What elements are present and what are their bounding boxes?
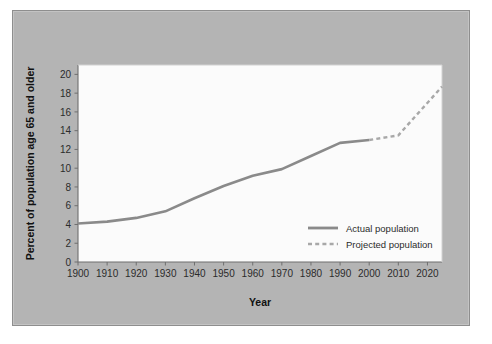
x-axis-tick-label: 1980 bbox=[300, 268, 323, 279]
x-axis-tick-label: 1910 bbox=[96, 268, 119, 279]
y-axis-tick-label: 4 bbox=[65, 219, 71, 230]
x-axis-tick-label: 1900 bbox=[67, 268, 90, 279]
figure-root: 1900191019201930194019501960197019801990… bbox=[0, 0, 492, 344]
legend-label: Projected population bbox=[346, 239, 433, 250]
y-axis-tick-label: 12 bbox=[60, 144, 72, 155]
x-axis-tick-label: 2020 bbox=[416, 268, 439, 279]
x-axis-tick-label: 1950 bbox=[212, 268, 235, 279]
x-axis-title: Year bbox=[249, 296, 271, 308]
y-axis-tick-label: 2 bbox=[65, 238, 71, 249]
x-axis-tick-label: 1930 bbox=[154, 268, 177, 279]
x-axis-tick-label: 1960 bbox=[242, 268, 265, 279]
y-axis-tick-label: 20 bbox=[60, 69, 72, 80]
y-axis-tick-label: 8 bbox=[65, 182, 71, 193]
y-axis-tick-label: 6 bbox=[65, 200, 71, 211]
x-axis-tick-label: 1990 bbox=[329, 268, 352, 279]
y-axis-tick-label: 18 bbox=[60, 88, 72, 99]
y-axis-tick-label: 0 bbox=[65, 257, 71, 268]
y-axis-tick-label: 14 bbox=[60, 125, 72, 136]
y-axis-tick-label: 10 bbox=[60, 163, 72, 174]
y-axis-tick-label: 16 bbox=[60, 107, 72, 118]
x-axis-tick-label: 1970 bbox=[271, 268, 294, 279]
y-axis-tick-labels: 02468101214161820 bbox=[60, 69, 72, 268]
y-axis-title: Percent of population age 65 and older bbox=[24, 67, 36, 261]
legend-label: Actual population bbox=[346, 223, 419, 234]
x-axis-tick-label: 1920 bbox=[125, 268, 148, 279]
x-axis-tick-label: 1940 bbox=[183, 268, 206, 279]
population-line-chart: 1900191019201930194019501960197019801990… bbox=[12, 10, 470, 326]
x-axis-tick-label: 2000 bbox=[358, 268, 381, 279]
x-axis-tick-labels: 1900191019201930194019501960197019801990… bbox=[67, 268, 439, 279]
x-axis-tick-label: 2010 bbox=[387, 268, 410, 279]
